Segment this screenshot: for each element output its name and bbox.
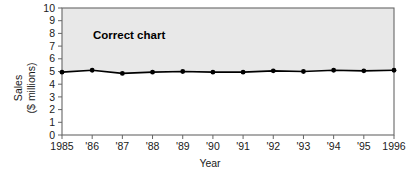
y-axis-tick-label: 3 — [49, 91, 55, 103]
x-axis-tick-label: 1985 — [50, 140, 74, 152]
x-axis-tick-label: '92 — [266, 140, 280, 152]
x-axis-tick-label: '91 — [236, 140, 250, 152]
data-point-marker — [60, 70, 65, 75]
y-axis-tick-label: 9 — [49, 14, 55, 26]
data-point-marker — [150, 70, 155, 75]
y-axis-tick-label: 6 — [49, 52, 55, 64]
data-point-marker — [180, 69, 185, 74]
x-axis-tick-label: '95 — [357, 140, 371, 152]
y-axis-title-line1: Sales — [12, 75, 24, 101]
data-point-marker — [211, 70, 216, 75]
y-axis-tick-label: 1 — [49, 116, 55, 128]
y-axis-tick-label: 10 — [43, 2, 55, 14]
x-axis-title: Year — [199, 157, 221, 169]
y-axis: 012345678910 — [43, 2, 62, 141]
y-axis-tick-label: 4 — [49, 78, 55, 90]
data-point-marker — [271, 68, 276, 73]
data-point-marker — [392, 68, 397, 73]
y-axis-tick-label: 5 — [49, 65, 55, 77]
chart-annotation-label: Correct chart — [93, 29, 165, 41]
data-point-marker — [241, 70, 246, 75]
x-axis: 1985'86'87'88'89'90'91'92'93'94'951996 — [50, 135, 406, 152]
data-point-marker — [331, 68, 336, 73]
x-axis-tick-label: '93 — [297, 140, 311, 152]
y-axis-tick-label: 2 — [49, 103, 55, 115]
y-axis-tick-label: 0 — [49, 129, 55, 141]
data-point-marker — [301, 69, 306, 74]
data-point-marker — [120, 71, 125, 76]
x-axis-tick-label: '90 — [206, 140, 220, 152]
x-axis-tick-label: '94 — [327, 140, 341, 152]
y-axis-title-line2: ($ millions) — [25, 63, 37, 114]
y-axis-tick-label: 8 — [49, 27, 55, 39]
x-axis-tick-label: '88 — [146, 140, 160, 152]
chart-container: 012345678910 1985'86'87'88'89'90'91'92'9… — [0, 0, 413, 174]
x-axis-tick-label: '89 — [176, 140, 190, 152]
x-axis-tick-label: 1996 — [382, 140, 406, 152]
line-chart-svg: 012345678910 1985'86'87'88'89'90'91'92'9… — [0, 0, 413, 174]
x-axis-tick-label: '86 — [85, 140, 99, 152]
data-point-marker — [90, 68, 95, 73]
data-point-marker — [361, 68, 366, 73]
y-axis-tick-label: 7 — [49, 40, 55, 52]
x-axis-tick-label: '87 — [116, 140, 130, 152]
